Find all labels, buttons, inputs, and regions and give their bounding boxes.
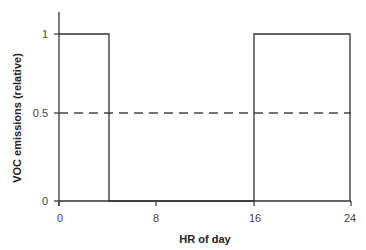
x-tick-label: 0: [57, 212, 63, 224]
x-tick-label: 24: [344, 212, 356, 224]
y-tick-label: 0.5: [33, 107, 48, 119]
x-axis-label: HR of day: [179, 233, 231, 245]
x-tick-label: 8: [153, 212, 159, 224]
y-tick-label: 0: [42, 195, 48, 207]
chart: 1 0.5 0 0 8 16 24 HR of day VOC emission…: [0, 0, 366, 250]
emission-step-line: [59, 34, 350, 201]
x-tick-label: 16: [249, 212, 261, 224]
y-axis-label: VOC emissions (relative): [11, 53, 23, 183]
y-tick-label: 1: [42, 28, 48, 40]
